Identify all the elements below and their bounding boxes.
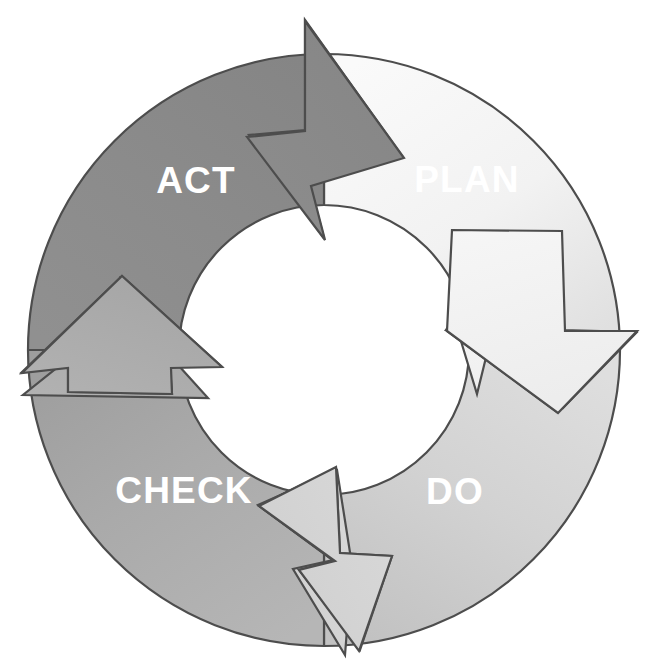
segment-label-check: CHECK bbox=[115, 470, 253, 511]
top-text-fragment bbox=[0, 0, 647, 7]
pdca-cycle-svg: ACT PLAN DO CHECK bbox=[0, 0, 647, 668]
segment-act-body bbox=[28, 54, 324, 350]
segment-label-act: ACT bbox=[156, 160, 236, 201]
segment-label-do: DO bbox=[426, 471, 484, 512]
pdca-diagram: ACT PLAN DO CHECK bbox=[0, 0, 647, 668]
segment-label-plan: PLAN bbox=[414, 159, 520, 200]
segment-act[interactable] bbox=[28, 54, 324, 350]
